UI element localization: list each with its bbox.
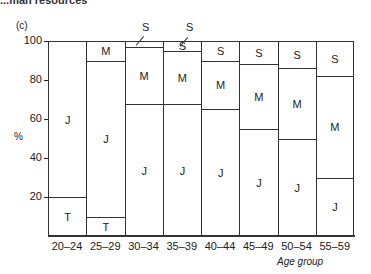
y-tick-40: 40: [16, 151, 42, 163]
y-tick-60: 60: [16, 112, 42, 124]
x-tick-label: 20–24: [48, 240, 86, 252]
y-tick-100: 100: [16, 34, 42, 46]
stacked-bar-plot: TJTJMJMJMSJMSJMSJMSJMS: [48, 41, 354, 236]
segment-M: M: [279, 68, 316, 138]
y-tick-20: 20: [16, 190, 42, 202]
bar-45–49: JMS: [239, 41, 277, 236]
bar-35–39: JMS: [163, 41, 201, 236]
segment-J: J: [49, 41, 86, 197]
x-axis-label: Age group: [277, 256, 323, 267]
segment-J: J: [317, 178, 353, 237]
x-tick-label: 55–59: [316, 240, 354, 252]
bar-25–29: TJM: [86, 41, 124, 236]
segment-M: M: [87, 41, 124, 61]
cropped-header-text: ...man resources: [0, 0, 87, 6]
x-tick-label: 40–44: [201, 240, 239, 252]
callout-s-30-34: S: [142, 21, 149, 33]
panel-label: (c): [16, 20, 28, 31]
bar-40–44: JMS: [201, 41, 239, 236]
segment-M: M: [202, 61, 239, 110]
x-tick-label: 25–29: [86, 240, 124, 252]
x-tick-label: 30–34: [125, 240, 163, 252]
segment-J: J: [240, 129, 277, 236]
segment-J: J: [164, 104, 201, 236]
segment-M: M: [126, 47, 163, 105]
segment-S: S: [240, 41, 277, 64]
y-axis-label: %: [14, 131, 23, 142]
segment-J: J: [87, 61, 124, 217]
x-tick-label: 35–39: [163, 240, 201, 252]
y-tick-80: 80: [16, 73, 42, 85]
callout-s-35-39: S: [186, 21, 193, 33]
segment-M: M: [164, 51, 201, 105]
x-axis-line: [48, 235, 355, 237]
x-tick-label: 45–49: [239, 240, 277, 252]
bar-55–59: JMS: [316, 41, 354, 236]
segment-M: M: [317, 76, 353, 177]
segment-S: [126, 41, 163, 47]
segment-S: S: [317, 41, 353, 76]
segment-J: J: [202, 109, 239, 236]
bar-30–34: JM: [125, 41, 163, 236]
segment-J: J: [126, 104, 163, 236]
x-tick-label: 50–54: [278, 240, 316, 252]
bar-50–54: JMS: [278, 41, 316, 236]
bar-20–24: TJ: [48, 41, 86, 236]
segment-T: T: [49, 197, 86, 236]
segment-S: S: [202, 41, 239, 61]
segment-J: J: [279, 139, 316, 237]
segment-M: M: [240, 64, 277, 128]
segment-S: S: [279, 41, 316, 68]
segment-T: T: [87, 217, 124, 237]
